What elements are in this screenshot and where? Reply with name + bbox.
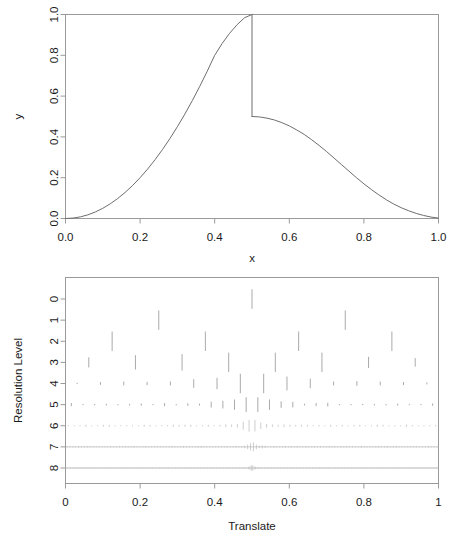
y-axis-tick-label: 0.6 [48, 88, 60, 104]
translate-tick-label: 0.8 [356, 496, 372, 508]
x-axis-tick-label: 0.6 [281, 231, 297, 243]
x-axis-title: x [249, 252, 255, 264]
figure-root: 0.00.20.40.60.81.00.00.20.40.60.81.0yx 0… [0, 0, 455, 536]
top-plot-labels: 0.00.20.40.60.81.00.00.20.40.60.81.0yx [12, 7, 447, 265]
x-axis-tick-label: 1.0 [431, 231, 447, 243]
resolution-level-label: 2 [48, 338, 60, 344]
translate-tick-label: 0.2 [132, 496, 148, 508]
resolution-level-label: 4 [48, 380, 60, 387]
coef-level-4 [77, 374, 427, 393]
resolution-level-label: 7 [48, 444, 60, 450]
top-plot-axes [61, 15, 439, 224]
wavelet-coefficients-group [66, 289, 439, 471]
coef-level-2 [112, 332, 392, 351]
y-axis-title: y [12, 113, 24, 119]
wavelet-coefficient-plot: 01234567800.20.40.60.81Resolution LevelT… [0, 268, 455, 536]
coef-level-8 [66, 465, 439, 471]
x-axis-tick-label: 0.0 [58, 231, 74, 243]
signal-plot: 0.00.20.40.60.81.00.00.20.40.60.81.0yx [0, 0, 455, 268]
resolution-level-axis-title: Resolution Level [12, 338, 24, 423]
resolution-level-label: 0 [48, 296, 60, 302]
resolution-level-label: 6 [48, 423, 60, 429]
bottom-plot-axes [61, 278, 439, 489]
x-axis-tick-label: 0.4 [207, 231, 224, 243]
coef-level-6 [68, 420, 435, 432]
resolution-level-label: 3 [48, 359, 60, 365]
coef-level-7 [66, 443, 439, 452]
coef-level-3 [89, 353, 415, 372]
y-axis-tick-label: 0.0 [48, 211, 60, 227]
translate-tick-label: 0.4 [207, 496, 224, 508]
signal-curve-group [66, 15, 439, 219]
bottom-plot-panel: 01234567800.20.40.60.81Resolution LevelT… [0, 268, 455, 536]
resolution-level-label: 8 [48, 465, 60, 471]
resolution-level-label: 5 [48, 401, 60, 407]
resolution-level-label: 1 [48, 317, 60, 323]
signal-curve-signal [66, 15, 253, 219]
translate-tick-label: 1 [435, 496, 441, 508]
top-plot-panel: 0.00.20.40.60.81.00.00.20.40.60.81.0yx [0, 0, 455, 268]
bottom-plot-labels: 01234567800.20.40.60.81Resolution LevelT… [12, 296, 442, 532]
y-axis-tick-label: 1.0 [48, 7, 60, 23]
x-axis-tick-label: 0.2 [132, 231, 148, 243]
y-axis-tick-label: 0.8 [48, 47, 60, 63]
y-axis-tick-label: 0.4 [48, 128, 60, 145]
translate-axis-title: Translate [228, 520, 276, 532]
coef-level-1 [159, 310, 346, 329]
signal-curve-signal-after-jump [252, 117, 439, 219]
x-axis-tick-label: 0.8 [356, 231, 372, 243]
coef-level-5 [71, 397, 432, 412]
translate-tick-label: 0 [62, 496, 68, 508]
translate-tick-label: 0.6 [281, 496, 297, 508]
y-axis-tick-label: 0.2 [48, 170, 60, 186]
